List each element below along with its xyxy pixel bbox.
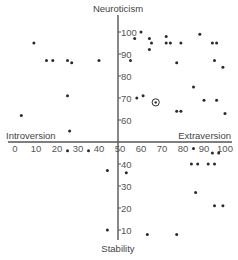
- data-point: [66, 59, 69, 62]
- data-point: [217, 152, 220, 155]
- data-point: [221, 204, 224, 207]
- data-point: [215, 42, 218, 45]
- data-point: [125, 171, 128, 174]
- y-tick-label: 70: [121, 93, 132, 104]
- x-tick-label: 10: [31, 143, 42, 154]
- data-point: [190, 163, 193, 166]
- y-tick-label: 20: [121, 203, 132, 214]
- data-point: [169, 42, 172, 45]
- axis-title-neuroticism: Neuroticism: [93, 3, 143, 14]
- y-tick-label: 60: [121, 115, 132, 126]
- data-point: [213, 59, 216, 62]
- data-point: [203, 99, 206, 102]
- x-tick-label: 70: [157, 143, 168, 154]
- data-point: [148, 48, 151, 51]
- data-point: [106, 169, 109, 172]
- x-tick-label: 60: [136, 143, 147, 154]
- x-tick-label: 20: [52, 143, 63, 154]
- data-point: [66, 149, 69, 152]
- y-tick-label: 30: [121, 181, 132, 192]
- data-point: [175, 233, 178, 236]
- axis-title-introversion: Introversion: [6, 130, 56, 141]
- data-point: [87, 149, 90, 152]
- data-point: [68, 130, 71, 133]
- data-point: [179, 110, 182, 113]
- y-tick-label: 10: [121, 225, 132, 236]
- data-point: [165, 42, 168, 45]
- data-point: [207, 163, 210, 166]
- data-point: [129, 59, 132, 62]
- data-point: [215, 99, 218, 102]
- data-point: [221, 66, 224, 69]
- data-point: [198, 33, 201, 36]
- x-tick-label: 50: [115, 143, 126, 154]
- data-point: [192, 147, 195, 150]
- x-tick-label: 30: [73, 143, 84, 154]
- data-point: [146, 233, 149, 236]
- data-point: [213, 163, 216, 166]
- y-tick-label: 100: [121, 27, 137, 38]
- data-point: [175, 61, 178, 64]
- axis-title-extraversion: Extraversion: [178, 130, 231, 141]
- y-tick-label: 40: [121, 159, 132, 170]
- data-point: [148, 37, 151, 40]
- x-tick-labels: 0102030405060708090100: [12, 143, 233, 154]
- data-point: [196, 163, 199, 166]
- data-point: [142, 94, 145, 97]
- axis-title-stability: Stability: [101, 243, 135, 254]
- data-point: [213, 204, 216, 207]
- data-point: [179, 42, 182, 45]
- data-point: [106, 229, 109, 232]
- data-point: [224, 112, 227, 115]
- x-tick-label: 90: [199, 143, 210, 154]
- data-point: [175, 110, 178, 113]
- data-point: [66, 94, 69, 97]
- x-tick-label: 80: [178, 143, 189, 154]
- highlighted-data-point: [155, 101, 157, 103]
- data-point: [32, 42, 35, 45]
- y-tick-label: 90: [121, 49, 132, 60]
- data-point: [194, 191, 197, 194]
- data-point: [150, 42, 153, 45]
- data-point: [20, 114, 23, 117]
- y-tick-labels: 1009080706040302010: [118, 27, 137, 236]
- data-point: [45, 59, 48, 62]
- data-point: [98, 59, 101, 62]
- y-tick-label: 80: [121, 71, 132, 82]
- data-point: [165, 35, 168, 38]
- data-point: [140, 31, 143, 34]
- data-point: [211, 152, 214, 155]
- data-point: [133, 37, 136, 40]
- data-point: [70, 61, 73, 64]
- data-point: [211, 42, 214, 45]
- scatter-chart: Neuroticism Stability Introversion Extra…: [0, 0, 238, 260]
- data-point: [51, 59, 54, 62]
- x-tick-label: 40: [94, 143, 105, 154]
- x-tick-label: 0: [12, 143, 17, 154]
- data-point: [135, 97, 138, 100]
- data-point: [192, 86, 195, 89]
